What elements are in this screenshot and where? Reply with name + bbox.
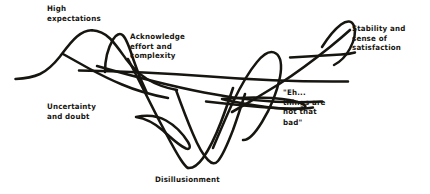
stroke-leaf-loop: [136, 116, 190, 149]
label-high-expectations: High expectations: [47, 4, 101, 24]
label-disillusionment: Disillusionment: [155, 175, 220, 185]
stroke-right-hook: [322, 21, 355, 65]
label-acknowledge-effort: Acknowledge effort and complexity: [130, 32, 185, 61]
label-stability-satisfaction: Stability and sense of satisfaction: [352, 24, 405, 53]
label-uncertainty-doubt: Uncertainty and doubt: [47, 102, 96, 122]
squiggle-diagram: High expectations Acknowledge effort and…: [0, 0, 430, 194]
label-eh-quote: "Eh... things are not that bad": [283, 88, 326, 127]
